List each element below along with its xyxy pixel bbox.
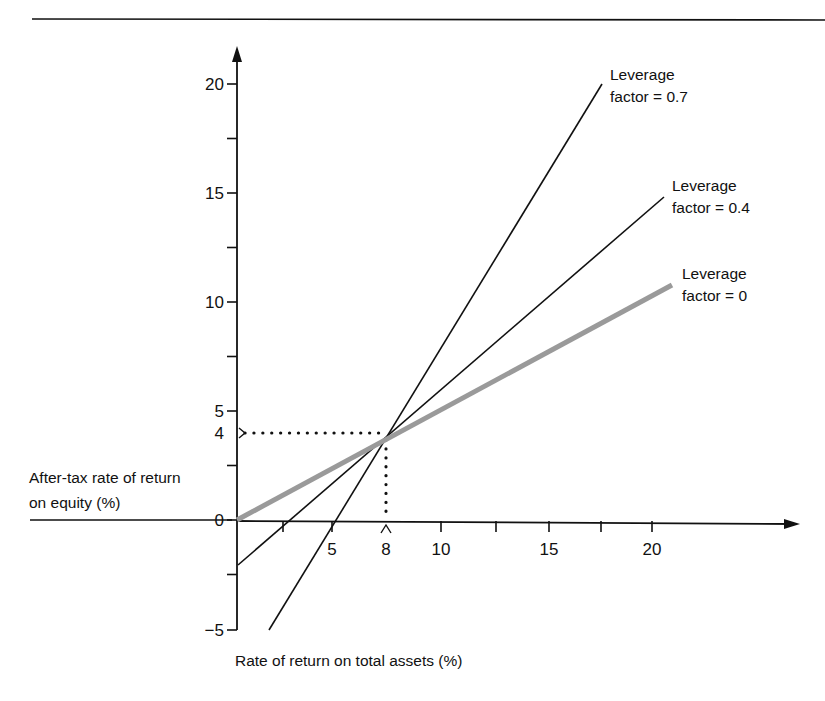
series-label: factor = 0.7 [610,88,688,105]
x-tick-label: 5 [327,540,336,559]
x-marker-chevron-icon [381,525,391,533]
x-tick-label: 20 [643,540,662,559]
y-marker-chevron-icon [239,428,245,438]
y-axis: 201510540−5 [205,46,242,640]
series-line [238,197,664,565]
series-label: factor = 0 [682,287,747,304]
y-tick-label: −5 [205,621,224,640]
y-tick-label: 5 [215,402,224,421]
y-axis-title-line1: After-tax rate of return [29,469,181,486]
x-axis: 58101520 [30,519,800,559]
y-tick-label: 4 [215,424,224,443]
series-label: factor = 0.4 [672,199,750,216]
y-tick-label: 15 [205,184,224,203]
x-tick-label: 8 [381,540,390,559]
y-tick-label: 10 [205,293,224,312]
x-axis-title: Rate of return on total assets (%) [235,652,462,669]
series-label: Leverage [672,177,737,194]
y-axis-title-line2: on equity (%) [29,494,120,511]
leverage-chart: 201510540−5 58101520 Leveragefactor = 0.… [0,0,825,701]
series-line [237,285,672,520]
x-tick-label: 15 [540,540,559,559]
x-axis-arrow-icon [784,519,800,529]
x-tick-label: 10 [432,540,451,559]
top-rule [32,19,825,20]
series-label: Leverage [610,66,675,83]
series-lines [237,84,672,630]
y-axis-arrow-icon [232,46,242,62]
series-labels: Leveragefactor = 0.7Leveragefactor = 0.4… [610,66,750,304]
series-label: Leverage [682,265,747,282]
y-tick-label: 20 [205,75,224,94]
